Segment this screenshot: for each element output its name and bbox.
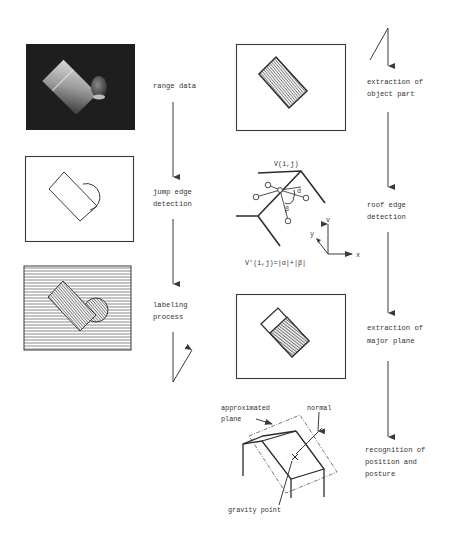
object-part-image-panel (237, 45, 346, 131)
step-label-extraction-of-1: extraction of (367, 78, 423, 86)
alpha-label: α (297, 187, 301, 195)
roof-edge-figure: V(i,j) α β v y x V'(i,j)=|α|+|β| (236, 160, 360, 267)
gravity-point-label: gravity point (228, 506, 281, 514)
connector-incoming (370, 28, 388, 60)
axis-y-label: y (310, 230, 314, 238)
step-label-position-and: position and (365, 458, 417, 466)
step-label-detection-2: detection (367, 213, 406, 221)
step-label-extraction-of-2: extraction of (367, 324, 423, 332)
major-plane-image-panel (237, 295, 346, 379)
step-label-roof-edge: roof edge (367, 201, 406, 209)
normal-label: normal (307, 404, 331, 412)
step-label-process: process (153, 313, 183, 321)
step-label-jump-edge: jump edge (153, 188, 192, 196)
v-ij-label: V(i,j) (274, 160, 298, 168)
formula-label: V'(i,j)=|α|+|β| (245, 259, 306, 267)
edge-image-panel (26, 157, 134, 242)
step-label-object-part: object part (367, 90, 414, 98)
step-label-major-plane: major plane (367, 337, 414, 345)
approx-plane-label-2: plane (221, 415, 241, 423)
range-image-panel (26, 44, 135, 130)
labeled-image-panel (24, 266, 131, 350)
step-label-recognition-of: recognition of (365, 446, 425, 454)
step-label-labeling: labeling (153, 301, 188, 309)
step-label-detection: detection (153, 200, 192, 208)
roof-edge-lower (236, 216, 280, 246)
step-label-posture: posture (365, 470, 395, 478)
approx-plane-label-1: approximated (221, 404, 270, 412)
connector-arrow-right-up (173, 350, 192, 382)
axis-x-label: x (356, 251, 360, 259)
axis-v-label: v (326, 216, 330, 224)
beta-label: β (285, 205, 289, 213)
step-label-range-data: range data (153, 82, 197, 90)
posture-figure: approximated plane normal gravity point (221, 404, 337, 514)
process-diagram: range data jump edge detection labeling … (0, 0, 452, 537)
